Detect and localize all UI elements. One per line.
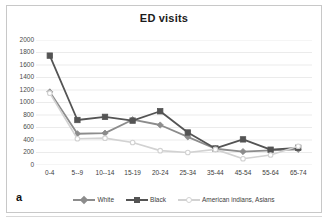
- legend-swatch-diamond-icon: [73, 196, 95, 204]
- y-tick-label: 800: [23, 112, 34, 119]
- x-tick-label: 25-34: [179, 170, 196, 177]
- legend-swatch-circle-icon: [178, 196, 200, 204]
- legend-item[interactable]: White: [73, 196, 114, 204]
- data-point-black-20-24: [158, 109, 163, 114]
- x-tick-label: 10--14: [96, 170, 115, 177]
- plot-area: [36, 40, 312, 165]
- y-tick-label: 0: [30, 162, 34, 169]
- data-point-american-indians-asians-55-64: [268, 153, 273, 158]
- data-point-black-0-4: [47, 53, 52, 58]
- chart-title: ED visits: [0, 12, 328, 24]
- x-tick-label: 20-24: [152, 170, 169, 177]
- data-point-american-indians-asians-65-74: [296, 144, 301, 149]
- figure-panel: ED visits 020040060080010001200140016001…: [0, 0, 328, 224]
- x-axis: 0-45--910--1415-1920-2425-3435-4445-5455…: [36, 170, 312, 182]
- data-point-american-indians-asians-45-54: [241, 156, 246, 161]
- y-axis: 0200400600800100012001400160018002000: [8, 34, 34, 171]
- y-tick-label: 400: [23, 137, 34, 144]
- legend-item[interactable]: American indians, Asians: [178, 196, 275, 204]
- chart-legend: WhiteBlackAmerican indians, Asians: [36, 193, 312, 207]
- series-line-american-indians-asians: [50, 93, 298, 159]
- y-tick-label: 1000: [20, 99, 34, 106]
- legend-label: American indians, Asians: [202, 197, 275, 204]
- y-tick-label: 200: [23, 149, 34, 156]
- y-tick-label: 1400: [20, 74, 34, 81]
- y-tick-label: 600: [23, 124, 34, 131]
- data-point-black-10--14: [102, 114, 107, 119]
- y-tick-label: 1800: [20, 49, 34, 56]
- data-point-american-indians-asians-35-44: [213, 147, 218, 152]
- x-tick-label: 0-4: [45, 170, 54, 177]
- data-point-black-55-64: [268, 147, 273, 152]
- y-tick-label: 1200: [20, 87, 34, 94]
- x-tick-label: 15-19: [124, 170, 141, 177]
- data-point-american-indians-asians-5--9: [75, 136, 80, 141]
- x-tick-label: 5--9: [72, 170, 84, 177]
- legend-label: Black: [150, 197, 166, 204]
- data-point-american-indians-asians-20-24: [158, 148, 163, 153]
- chart-svg: [36, 40, 312, 165]
- y-tick-label: 2000: [20, 37, 34, 44]
- data-point-black-5--9: [75, 117, 80, 122]
- legend-item[interactable]: Black: [126, 196, 166, 204]
- legend-swatch-square-icon: [126, 196, 148, 204]
- y-tick-label: 1600: [20, 62, 34, 69]
- data-point-black-25-34: [185, 130, 190, 135]
- x-tick-label: 45-54: [235, 170, 252, 177]
- panel-bottom-divider: [6, 216, 322, 217]
- data-point-american-indians-asians-10--14: [103, 136, 108, 141]
- data-point-american-indians-asians-25-34: [186, 150, 191, 155]
- legend-label: White: [97, 197, 114, 204]
- data-point-black-45-54: [240, 137, 245, 142]
- x-tick-label: 35-44: [207, 170, 224, 177]
- panel-letter: a: [16, 192, 22, 203]
- data-point-black-15-19: [130, 118, 135, 123]
- data-point-white-45-54: [240, 148, 246, 154]
- x-tick-label: 65-74: [290, 170, 307, 177]
- data-point-american-indians-asians-15-19: [130, 140, 135, 145]
- data-point-american-indians-asians-0-4: [48, 91, 53, 96]
- x-tick-label: 55-64: [262, 170, 279, 177]
